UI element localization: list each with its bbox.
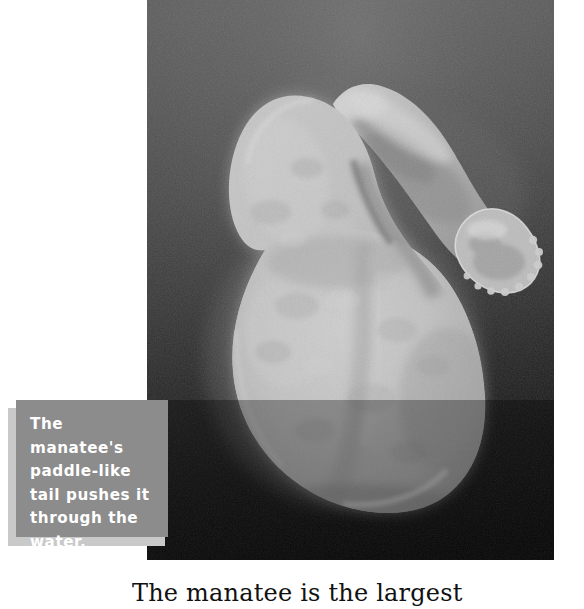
photo-vignette [147, 400, 554, 560]
manatee-photograph [147, 0, 554, 560]
body-paragraph-line: The manatee is the largest [132, 578, 584, 609]
manatee-photo-illustration [147, 0, 554, 560]
caption-box: The manatee's paddle-like tail pushes it… [16, 400, 168, 537]
photo-caption: The manatee's paddle-like tail pushes it… [8, 400, 168, 546]
caption-text: The manatee's paddle-like tail pushes it… [30, 413, 162, 555]
